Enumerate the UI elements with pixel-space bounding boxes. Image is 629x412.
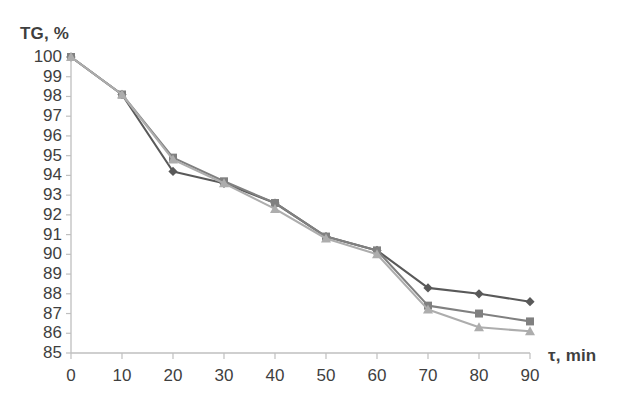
y-axis-tick-label: 94 (8, 166, 62, 183)
y-axis-tick-label: 100 (8, 48, 62, 65)
series-line-triangle (71, 57, 530, 331)
y-axis-tick-label: 90 (8, 245, 62, 262)
y-axis-tick-label: 98 (8, 87, 62, 104)
y-axis-tick-label: 93 (8, 186, 62, 203)
y-axis-tick-label: 86 (8, 324, 62, 341)
axes (66, 57, 530, 359)
chart-plot-area (0, 0, 629, 412)
y-axis-tick-label: 91 (8, 226, 62, 243)
chart-container: TG, % τ, min 100999897969594939291908988… (0, 0, 629, 412)
y-axis-tick-label: 96 (8, 127, 62, 144)
y-axis-tick-label: 85 (8, 344, 62, 361)
y-axis-tick-label: 97 (8, 107, 62, 124)
series-line-square (71, 57, 530, 321)
y-axis-tick-label: 99 (8, 68, 62, 85)
series-line-diamond (71, 57, 530, 302)
y-axis-tick-label: 92 (8, 206, 62, 223)
series-diamond (66, 52, 534, 306)
y-axis-tick-label: 95 (8, 147, 62, 164)
data-point-diamond (525, 297, 534, 306)
data-point-square (475, 310, 483, 318)
y-axis-tick-label: 88 (8, 285, 62, 302)
y-axis-tick-label: 89 (8, 265, 62, 282)
data-series (66, 52, 535, 335)
data-point-diamond (474, 289, 483, 298)
x-axis-tick-label: 90 (500, 367, 560, 384)
y-axis-tick-label: 87 (8, 305, 62, 322)
data-point-square (526, 317, 534, 325)
series-square (67, 53, 534, 325)
